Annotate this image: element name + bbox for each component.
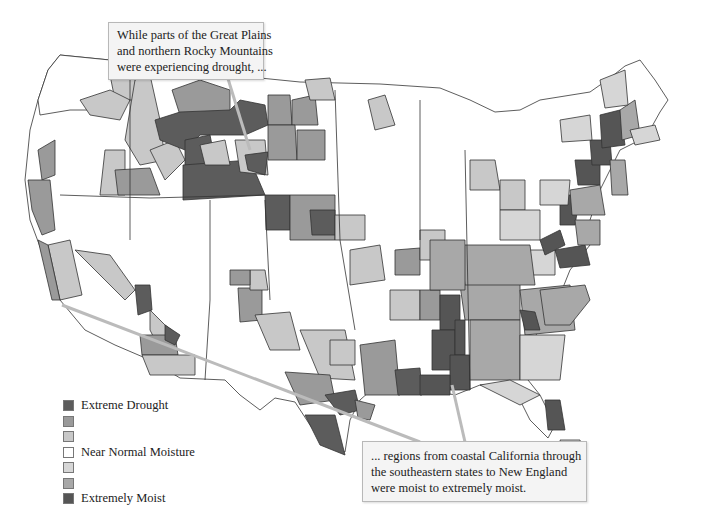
callout-moist-line-2: the southeastern states to New England [371,464,576,480]
legend-item-extreme-drought: Extreme Drought [63,398,195,414]
callout-moist-line-3: were moist to extremely moist. [371,480,576,496]
callout-drought-line-1: While parts of the Great Plains [117,27,253,43]
legend-item-moderate-drought [63,429,195,445]
legend-swatch [63,493,74,504]
callout-moist: ... regions from coastal California thro… [362,441,587,502]
map-legend: Extreme Drought Near Normal Moisture Ext… [63,398,195,507]
callout-drought-line-3: were experiencing drought, ... [117,59,253,75]
legend-label: Extreme Drought [81,398,168,413]
legend-item-extremely-moist: Extremely Moist [63,491,195,507]
callout-drought-line-2: and northern Rocky Mountains [117,43,253,59]
legend-item-near-normal: Near Normal Moisture [63,445,195,461]
legend-swatch [63,462,74,473]
legend-label: Near Normal Moisture [81,445,195,460]
legend-swatch [63,400,74,411]
legend-item-moderately-moist [63,460,195,476]
legend-swatch [63,431,74,442]
callout-drought: While parts of the Great Plains and nort… [108,22,264,80]
callout-moist-line-1: ... regions from coastal California thro… [371,448,576,464]
legend-label: Extremely Moist [81,491,165,506]
legend-swatch [63,416,74,427]
legend-item-severe-drought [63,414,195,430]
legend-swatch [63,447,74,458]
legend-swatch [63,478,74,489]
legend-item-very-moist [63,476,195,492]
